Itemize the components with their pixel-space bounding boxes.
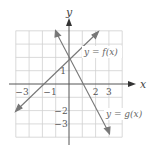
x-axis-label: x: [140, 78, 147, 91]
coordinate-plot: x y −3 −1 2 3 1 −2 −3 y = f(x) y = g(x): [0, 0, 153, 150]
y-tick-label: −3: [54, 119, 68, 129]
y-axis-arrow-icon: [66, 18, 72, 26]
x-axis-arrow-icon: [128, 81, 136, 87]
arrow-icon: [55, 31, 61, 38]
x-tick-label: 2: [93, 87, 99, 97]
y-axis-label: y: [65, 6, 73, 19]
f-label: y = f(x): [83, 47, 118, 57]
g-label: y = g(x): [105, 109, 143, 119]
x-tick-label: −1: [43, 87, 56, 97]
x-tick-label: 3: [106, 87, 112, 97]
series-f: [16, 32, 99, 112]
y-tick-label: −2: [54, 106, 67, 116]
arrow-icon: [105, 127, 111, 134]
x-tick-label: −3: [15, 87, 29, 97]
